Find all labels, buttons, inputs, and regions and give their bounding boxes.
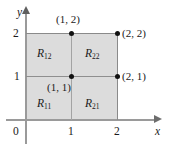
region-label-r11: R11	[37, 98, 51, 110]
x-axis-line	[6, 119, 156, 121]
region-label-r22-base: R	[85, 47, 92, 59]
y-axis-arrowhead	[22, 6, 30, 14]
y-tick-label-1: 1	[14, 71, 20, 83]
point-marker-2-2	[115, 31, 120, 36]
point-marker-1-1	[69, 74, 74, 79]
point-label-2-1: (2, 1)	[122, 71, 146, 82]
figure-canvas: (1, 2) (2, 2) (2, 1) (1, 1) 2 1 0 1 2 y …	[0, 0, 172, 151]
y-axis-label: y	[17, 7, 22, 19]
region-label-r22-sub: 22	[92, 52, 100, 61]
region-label-r22: R22	[85, 48, 100, 60]
x-axis-label: x	[155, 126, 160, 138]
region-label-r11-base: R	[37, 97, 44, 109]
point-label-1-2: (1, 2)	[56, 14, 80, 25]
x-tick-label-2: 2	[114, 126, 120, 138]
region-label-r12: R12	[37, 48, 52, 60]
region-label-r21: R21	[85, 98, 100, 110]
region-label-r12-base: R	[37, 47, 44, 59]
x-tick-label-1: 1	[68, 126, 74, 138]
region-label-r21-sub: 21	[92, 102, 100, 111]
point-marker-2-1	[115, 74, 120, 79]
origin-label: 0	[13, 126, 19, 138]
point-label-1-1: (1, 1)	[47, 82, 71, 93]
region-label-r11-sub: 11	[44, 102, 51, 111]
x-axis-arrowhead	[154, 115, 162, 123]
region-label-r21-base: R	[85, 97, 92, 109]
y-tick-label-2: 2	[13, 28, 19, 40]
point-marker-1-2	[69, 31, 74, 36]
region-label-r12-sub: 12	[44, 52, 52, 61]
point-label-2-2: (2, 2)	[122, 28, 146, 39]
